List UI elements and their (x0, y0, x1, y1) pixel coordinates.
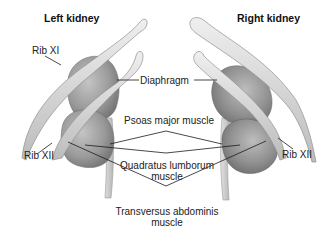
label-rib-xii-left: Rib XII (24, 150, 54, 161)
label-diaphragm: Diaphragm (140, 75, 189, 86)
label-transversus-line2: muscle (104, 217, 230, 228)
title-left-kidney: Left kidney (44, 13, 99, 24)
label-psoas: Psoas major muscle (124, 115, 214, 126)
label-quadratus-line2: muscle (112, 171, 222, 182)
title-right-kidney: Right kidney (237, 13, 300, 24)
label-quadratus-line1: Quadratus lumborum (112, 160, 222, 171)
label-rib-xi: Rib XI (32, 45, 59, 56)
label-transversus-line1: Transversus abdominis (104, 206, 230, 217)
label-transversus: Transversus abdominis muscle (104, 206, 230, 228)
label-quadratus: Quadratus lumborum muscle (112, 160, 222, 182)
leader-psoas (110, 131, 222, 144)
leader-rib-xi (45, 56, 61, 65)
label-rib-xii-right: Rib XII (282, 149, 312, 160)
